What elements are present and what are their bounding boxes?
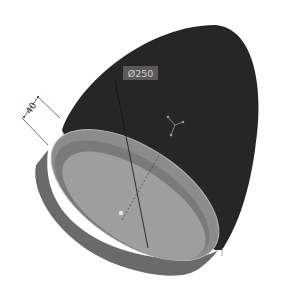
diameter-label[interactable]: Ø250	[128, 68, 154, 79]
center-point-marker[interactable]	[118, 210, 123, 215]
cad-viewport[interactable]: Ø250 40	[0, 0, 285, 306]
height-label: 40	[24, 100, 39, 115]
height-dimension[interactable]: 40	[22, 96, 60, 145]
